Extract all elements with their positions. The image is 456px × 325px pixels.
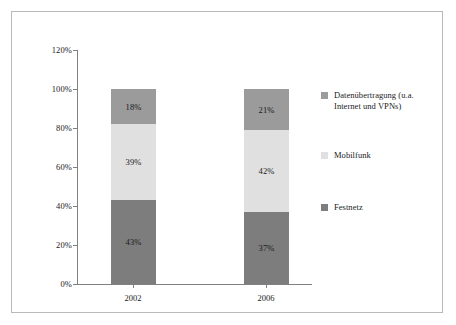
legend-label-festnetz: Festnetz: [334, 202, 363, 213]
legend-label-line2: Internet und VPNs): [334, 101, 401, 111]
y-tick-mark-60: [73, 167, 77, 168]
chart-screenshot: 0% 20% 40% 60% 80% 100% 120% 43%: [0, 0, 456, 325]
y-tick-label-40: 40%: [56, 201, 72, 211]
legend-swatch-icon: [321, 204, 328, 211]
chart-frame: 0% 20% 40% 60% 80% 100% 120% 43%: [11, 11, 443, 313]
x-tick-label-2002: 2002: [125, 293, 142, 303]
legend-label-daten: Datenübertragung (u.a.Internet und VPNs): [334, 90, 414, 112]
y-tick-label-80: 80%: [56, 123, 72, 133]
legend-label-mobilfunk: Mobilfunk: [334, 150, 371, 161]
bar-segment-label: 39%: [126, 157, 142, 167]
bar-segment-daten-2002[interactable]: 18%: [111, 89, 156, 124]
x-axis-line: [77, 284, 312, 285]
bar-segment-mobilfunk-2002[interactable]: 39%: [111, 124, 156, 200]
legend-swatch-icon: [321, 92, 328, 99]
plot-area: 43% 39% 18% 37% 42% 21%: [77, 50, 312, 284]
y-tick-mark-120: [73, 50, 77, 51]
legend-label-line1: Datenübertragung (u.a.: [334, 90, 414, 100]
bar-segment-label: 21%: [259, 105, 275, 115]
y-tick-mark-100: [73, 89, 77, 90]
bar-segment-festnetz-2002[interactable]: 43%: [111, 200, 156, 284]
bar-segment-mobilfunk-2006[interactable]: 42%: [244, 130, 289, 212]
bar-segment-label: 43%: [126, 237, 142, 247]
y-tick-label-0: 0%: [60, 279, 72, 289]
x-tick-label-2006: 2006: [258, 293, 275, 303]
legend-item-mobilfunk[interactable]: Mobilfunk: [321, 150, 371, 161]
x-tick-mark-2002: [133, 284, 134, 288]
y-axis-labels: 0% 20% 40% 60% 80% 100% 120%: [36, 50, 72, 284]
y-tick-mark-40: [73, 206, 77, 207]
y-tick-label-100: 100%: [52, 84, 72, 94]
legend-item-festnetz[interactable]: Festnetz: [321, 202, 363, 213]
x-tick-mark-2006: [266, 284, 267, 288]
bar-segment-festnetz-2006[interactable]: 37%: [244, 212, 289, 284]
y-tick-mark-0: [73, 284, 77, 285]
bar-segment-daten-2006[interactable]: 21%: [244, 89, 289, 130]
y-tick-label-20: 20%: [56, 240, 72, 250]
y-tick-mark-80: [73, 128, 77, 129]
bar-segment-label: 42%: [259, 166, 275, 176]
y-tick-label-60: 60%: [56, 162, 72, 172]
y-tick-label-120: 120%: [52, 45, 72, 55]
y-tick-mark-20: [73, 245, 77, 246]
bar-segment-label: 37%: [259, 243, 275, 253]
legend-item-daten[interactable]: Datenübertragung (u.a.Internet und VPNs): [321, 90, 414, 112]
y-axis-line: [77, 50, 78, 284]
legend-swatch-icon: [321, 152, 328, 159]
bar-segment-label: 18%: [126, 102, 142, 112]
